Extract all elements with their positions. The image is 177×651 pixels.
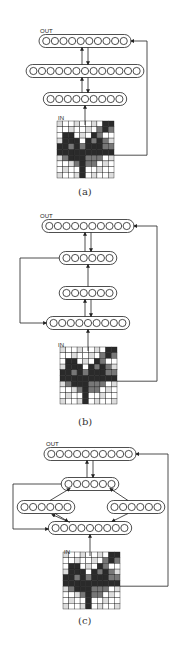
neuron — [112, 37, 119, 44]
neuron — [91, 480, 98, 487]
input-grid-b-cell — [94, 353, 100, 359]
input-grid-b-cell — [71, 381, 77, 387]
input-grid-c-cell — [92, 586, 98, 592]
input-grid-b-cell — [106, 358, 112, 364]
input-grid-a-cell — [74, 127, 80, 133]
caption-c: (c) — [78, 615, 92, 626]
neuron — [43, 37, 50, 44]
neuron — [30, 67, 37, 74]
input-grid-c-cell — [114, 581, 120, 587]
input-grid-b-cell — [66, 353, 72, 359]
input-grid-a-cell — [74, 121, 80, 127]
input-grid-c-cell — [69, 575, 75, 581]
input-grid-a-cell — [63, 172, 69, 178]
input-grid-a-cell — [97, 155, 103, 161]
neuron — [69, 37, 76, 44]
neuron — [97, 289, 104, 296]
neuron — [80, 222, 87, 229]
input-grid-b-cell — [83, 387, 89, 393]
input-grid-b-cell — [106, 347, 112, 353]
input-grid-b-cell — [71, 364, 77, 370]
neuron — [102, 319, 109, 326]
neuron — [47, 67, 54, 74]
input-grid-b-cell — [100, 364, 106, 370]
input-grid-b-cell — [77, 398, 83, 404]
input-grid-a-cell — [97, 172, 103, 178]
input-grid-c-cell — [97, 569, 103, 575]
input-grid-b-cell — [60, 358, 66, 364]
neuron — [89, 254, 96, 261]
input-grid-c-cell — [109, 592, 115, 598]
input-grid-c-cell — [86, 558, 92, 564]
input-grid-c-cell — [97, 581, 103, 587]
connection — [110, 489, 128, 501]
input-grid-b-cell — [60, 370, 66, 376]
input-grid-a-cell — [86, 161, 92, 167]
input-grid-c-cell — [103, 575, 109, 581]
input-grid-c-cell — [74, 598, 80, 604]
input-grid-c-cell — [109, 575, 115, 581]
input-grid-b-cell — [106, 370, 112, 376]
input-grid-b-cell — [89, 370, 95, 376]
input-grid-a-cell — [108, 155, 114, 161]
neuron — [55, 503, 62, 510]
neuron — [110, 319, 117, 326]
input-grid-c-cell — [97, 592, 103, 598]
connection — [20, 258, 59, 323]
input-grid-a-cell — [57, 138, 63, 144]
input-grid-b-cell — [66, 347, 72, 353]
input-grid-b-cell — [71, 353, 77, 359]
input-grid-c-cell — [103, 581, 109, 587]
hidden-layer-a — [26, 65, 144, 78]
out-label-a: OUT — [40, 28, 53, 34]
hidden-layer-b2 — [59, 287, 117, 300]
neuron — [80, 254, 87, 261]
input-grid-c-cell — [103, 552, 109, 558]
neuron — [91, 450, 98, 457]
input-grid-c-cell — [114, 563, 120, 569]
input-grid-c-cell — [86, 569, 92, 575]
input-grid-c-cell — [92, 569, 98, 575]
input-grid-a-cell — [63, 161, 69, 167]
neuron — [128, 503, 135, 510]
input-grid-c-cell — [86, 575, 92, 581]
neuron — [119, 319, 126, 326]
neuron — [73, 95, 80, 102]
neuron — [54, 222, 61, 229]
neuron — [99, 67, 106, 74]
neuron — [72, 289, 79, 296]
neuron — [104, 524, 111, 531]
neuron — [112, 524, 119, 531]
neuron — [78, 524, 85, 531]
input-grid-a-cell — [74, 161, 80, 167]
input-grid-a-cell — [74, 150, 80, 156]
input-grid-b-cell — [71, 347, 77, 353]
neuron — [106, 222, 113, 229]
input-grid-b-cell — [77, 393, 83, 399]
input-grid-c-cell — [103, 603, 109, 609]
neuron — [137, 503, 144, 510]
input-grid-b-cell — [94, 398, 100, 404]
input-grid-a-cell — [86, 144, 92, 150]
input-grid-c-cell — [114, 592, 120, 598]
input-grid-c-cell — [109, 598, 115, 604]
input-grid-a-cell — [97, 121, 103, 127]
input-grid-c-cell — [69, 563, 75, 569]
input-grid-c-cell — [109, 563, 115, 569]
input-grid-c-cell — [80, 586, 86, 592]
input-grid-c-cell — [69, 598, 75, 604]
input-grid-c-cell — [109, 603, 115, 609]
input-grid-a-cell — [108, 132, 114, 138]
input-grid-b-cell — [71, 358, 77, 364]
input-grid-c-cell — [109, 552, 115, 558]
neuron — [99, 450, 106, 457]
input-grid-b-cell — [94, 387, 100, 393]
input-grid-a-cell — [63, 127, 69, 133]
input-grid-a-cell — [91, 155, 97, 161]
input-grid-a-cell — [91, 138, 97, 144]
input-grid-a-cell — [63, 144, 69, 150]
input-grid-a-cell — [68, 161, 74, 167]
neuron — [111, 503, 118, 510]
input-grid-c-cell — [109, 581, 115, 587]
input-grid-c-cell — [114, 598, 120, 604]
